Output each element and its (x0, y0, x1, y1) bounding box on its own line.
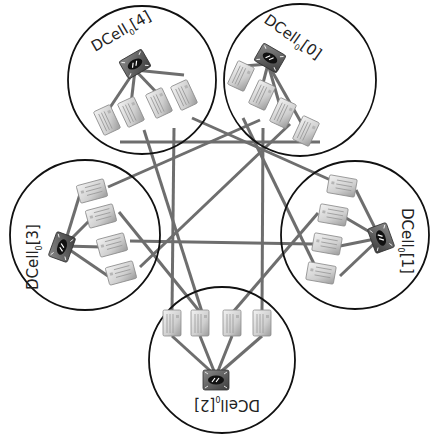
cell-label-1: DCell0[1] (396, 208, 416, 274)
server-icon-1-1 (318, 204, 349, 227)
switch-icon-1 (367, 222, 395, 253)
server-icon-2-0 (163, 310, 181, 336)
dcell-topology-diagram: DCell0[4] DCell0[0] DCell0[3] DCell0[1] … (0, 0, 438, 436)
server-icon-2-2 (223, 310, 241, 336)
server-icon-1-3 (306, 262, 337, 285)
server-icon-4-2 (145, 87, 172, 118)
switch-icon-3 (48, 231, 76, 262)
cell-labels: DCell0[4] DCell0[0] DCell0[3] DCell0[1] … (24, 7, 416, 414)
cell-label-4: DCell0[4] (88, 7, 155, 57)
server-icon-3-2 (96, 233, 128, 258)
server-icon-0-1 (248, 79, 275, 110)
server-icon-3-0 (76, 179, 108, 204)
server-icon-2-3 (253, 310, 271, 336)
link-3-1 (130, 241, 313, 244)
server-icon-0-2 (269, 97, 296, 128)
servers (76, 60, 357, 336)
link-0-1 (140, 124, 290, 267)
server-icon-4-1 (117, 96, 144, 127)
server-icon-4-0 (93, 104, 120, 135)
link-1-2 (233, 213, 318, 312)
switch-icon-4 (119, 49, 152, 79)
server-icon-1-0 (327, 175, 358, 198)
cell-label-3: DCell0[3] (24, 224, 44, 290)
server-icon-3-1 (85, 204, 117, 229)
server-icon-2-1 (191, 310, 209, 336)
switch-icon-2 (203, 370, 229, 390)
server-icon-1-2 (312, 233, 343, 256)
switch-icon-0 (254, 43, 287, 73)
server-icon-4-3 (170, 79, 197, 110)
server-icon-3-3 (105, 261, 137, 286)
cell-label-2: DCell0[2] (194, 394, 260, 414)
